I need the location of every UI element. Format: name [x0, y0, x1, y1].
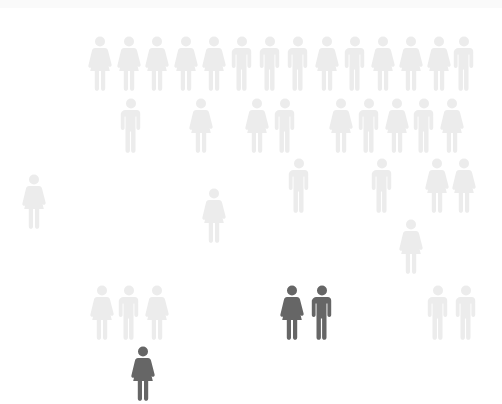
faded-male-figure-icon — [229, 35, 255, 91]
faded-female-figure-icon — [439, 97, 465, 153]
faded-female-figure-icon — [89, 284, 115, 340]
faded-male-figure-icon — [411, 97, 437, 153]
faded-female-figure-icon — [328, 97, 354, 153]
faded-female-figure-icon — [87, 35, 113, 91]
faded-female-figure-icon — [201, 35, 227, 91]
faded-male-figure-icon — [257, 35, 283, 91]
faded-female-figure-icon — [398, 218, 424, 274]
faded-male-figure-icon — [356, 97, 382, 153]
faded-female-figure-icon — [424, 157, 450, 213]
faded-female-figure-icon — [116, 35, 142, 91]
faded-male-figure-icon — [118, 97, 144, 153]
faded-male-figure-icon — [286, 157, 312, 213]
faded-female-figure-icon — [21, 173, 47, 229]
faded-male-figure-icon — [342, 35, 368, 91]
faded-female-figure-icon — [398, 35, 424, 91]
faded-male-figure-icon — [425, 284, 451, 340]
highlighted-female-figure-icon — [130, 345, 156, 401]
top-edge-fade — [0, 0, 502, 8]
faded-female-figure-icon — [384, 97, 410, 153]
faded-male-figure-icon — [451, 35, 477, 91]
faded-female-figure-icon — [314, 35, 340, 91]
faded-female-figure-icon — [244, 97, 270, 153]
faded-female-figure-icon — [370, 35, 396, 91]
faded-female-figure-icon — [451, 157, 477, 213]
faded-female-figure-icon — [201, 187, 227, 243]
highlighted-male-figure-icon — [309, 284, 335, 340]
faded-male-figure-icon — [369, 157, 395, 213]
faded-female-figure-icon — [188, 97, 214, 153]
faded-male-figure-icon — [272, 97, 298, 153]
faded-female-figure-icon — [144, 284, 170, 340]
highlighted-female-figure-icon — [279, 284, 305, 340]
faded-male-figure-icon — [453, 284, 479, 340]
faded-female-figure-icon — [426, 35, 452, 91]
pictogram-canvas — [0, 0, 502, 404]
faded-female-figure-icon — [144, 35, 170, 91]
faded-male-figure-icon — [116, 284, 142, 340]
faded-male-figure-icon — [285, 35, 311, 91]
faded-female-figure-icon — [173, 35, 199, 91]
